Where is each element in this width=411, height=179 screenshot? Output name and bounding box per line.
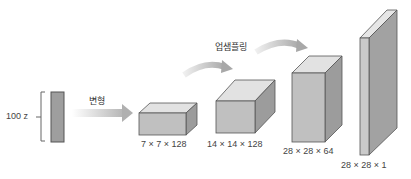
block-7x7x128 <box>139 103 197 135</box>
block-label: 14 × 14 × 128 <box>207 139 263 149</box>
block-label: 28 × 28 × 1 <box>341 160 387 170</box>
block-28x28x64 <box>292 56 342 142</box>
generator-diagram <box>0 0 411 179</box>
upsample-label: 업샘플링 <box>215 40 247 53</box>
reshape-label: 변형 <box>89 94 105 107</box>
upsample-arrow-icon <box>256 39 308 52</box>
block-label: 7 × 7 × 128 <box>141 139 187 149</box>
block-28x28x1 <box>360 10 397 155</box>
block-14x14x128 <box>216 80 275 133</box>
upsample-arrow-icon <box>184 60 233 75</box>
input-vector <box>36 92 64 142</box>
block-label: 28 × 28 × 64 <box>283 146 334 156</box>
input-label: 100 z <box>6 111 28 121</box>
